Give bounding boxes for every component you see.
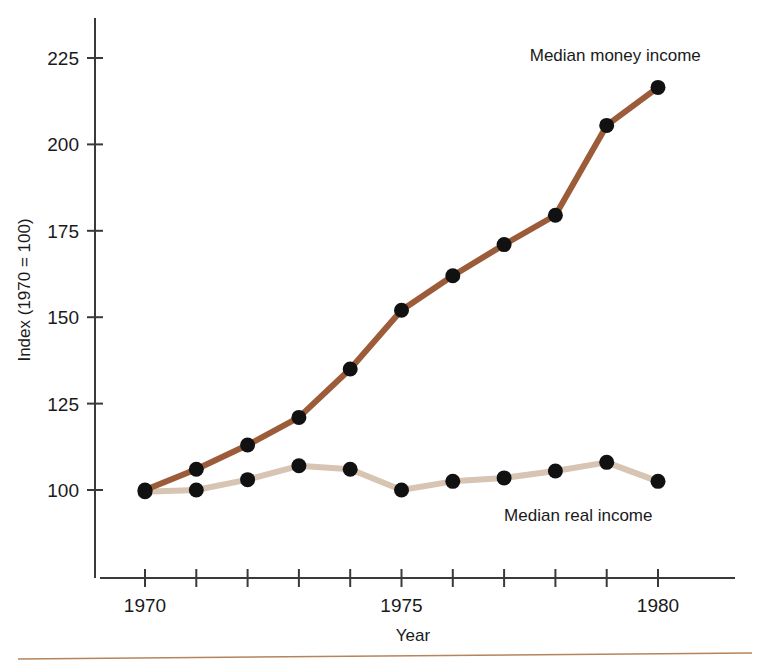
data-point <box>189 462 204 477</box>
y-tick-label: 125 <box>47 394 79 415</box>
x-tick-label: 1970 <box>124 595 166 616</box>
data-point <box>394 303 409 318</box>
data-point <box>651 474 666 489</box>
data-point <box>343 462 358 477</box>
y-tick-label: 150 <box>47 307 79 328</box>
series-label-real-income: Median real income <box>504 506 652 525</box>
data-point <box>445 474 460 489</box>
data-point <box>240 438 255 453</box>
data-point <box>497 470 512 485</box>
series-points <box>138 80 666 499</box>
line-chart: 100125150175200225 197019751980 Median m… <box>0 0 768 665</box>
data-point <box>548 208 563 223</box>
data-point <box>291 458 306 473</box>
data-point <box>651 80 666 95</box>
series-lines <box>145 87 658 491</box>
x-axis-title: Year <box>396 626 431 645</box>
x-tick-label: 1975 <box>380 595 422 616</box>
y-tick-label: 225 <box>47 48 79 69</box>
x-tick-label: 1980 <box>637 595 679 616</box>
data-point <box>394 483 409 498</box>
data-point <box>291 410 306 425</box>
footer-divider <box>18 653 752 659</box>
series-label-money-income: Median money income <box>530 46 701 65</box>
data-point <box>189 483 204 498</box>
data-line-money-income <box>145 87 658 490</box>
data-point <box>599 455 614 470</box>
y-tick-label: 200 <box>47 134 79 155</box>
y-axis-title: Index (1970 = 100) <box>15 218 34 361</box>
series-annotations: Median money incomeMedian real income <box>504 46 701 525</box>
data-point <box>548 463 563 478</box>
y-axis-tick-labels: 100125150175200225 <box>47 48 79 501</box>
data-point <box>599 118 614 133</box>
y-tick-label: 175 <box>47 221 79 242</box>
data-point <box>497 237 512 252</box>
data-point <box>445 268 460 283</box>
y-tick-label: 100 <box>47 480 79 501</box>
data-point <box>343 362 358 377</box>
data-point <box>138 484 153 499</box>
data-point <box>240 472 255 487</box>
chart-figure: 100125150175200225 197019751980 Median m… <box>0 0 768 665</box>
x-axis-tick-labels: 197019751980 <box>124 595 679 616</box>
